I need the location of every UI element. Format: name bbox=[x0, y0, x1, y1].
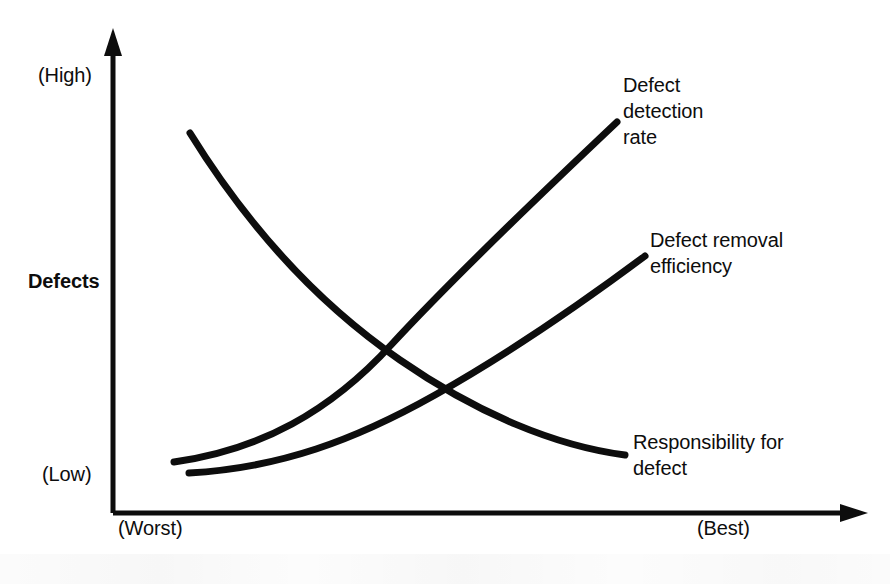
x-axis-best-label: (Best) bbox=[697, 517, 750, 540]
y-axis-arrowhead-icon bbox=[104, 28, 122, 56]
defects-chart-figure: (High) (Low) Defects (Worst) (Best) Defe… bbox=[0, 0, 890, 584]
series-label-defect-detection-rate: Defect detection rate bbox=[623, 72, 703, 150]
series-label-defect-removal-efficiency: Defect removal efficiency bbox=[650, 227, 783, 279]
chart-plot-area bbox=[0, 0, 890, 584]
x-axis-arrowhead-icon bbox=[840, 504, 868, 522]
x-axis-worst-label: (Worst) bbox=[118, 517, 182, 540]
series-label-responsibility-for-defect: Responsibility for defect bbox=[633, 429, 784, 481]
series-line-defect-detection-rate bbox=[174, 122, 617, 462]
y-axis-title: Defects bbox=[28, 270, 100, 293]
y-axis-low-label: (Low) bbox=[42, 463, 92, 486]
y-axis-high-label: (High) bbox=[38, 64, 92, 87]
